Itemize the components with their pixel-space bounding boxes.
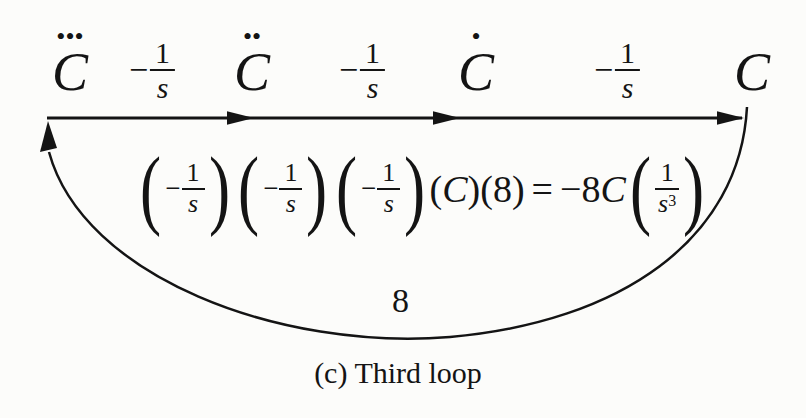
open-paren: (: [480, 170, 493, 208]
arrowhead-into-cdot-icon: [433, 111, 460, 125]
equation-factor-2: ( − 1 s ): [234, 152, 332, 226]
equation-factor-1: ( − 1 s ): [136, 152, 234, 226]
arrowhead-into-c-icon: [717, 111, 744, 125]
fraction-denominator: s: [154, 71, 172, 104]
feedback-arrowhead-icon: [40, 121, 57, 152]
feedback-loop-gain-label: 8: [392, 284, 409, 318]
fraction-numerator: 1: [360, 36, 385, 69]
close-paren: ): [404, 152, 425, 226]
denominator-base: s: [658, 189, 668, 218]
minus-sign: −: [263, 175, 279, 202]
node-label: C: [734, 48, 770, 98]
rhs-coefficient: −8: [560, 170, 600, 208]
rhs-fraction-group: ( 1 s3 ): [626, 152, 709, 226]
arrowhead-into-cddot-icon: [227, 111, 254, 125]
fraction-denominator: s3: [655, 190, 679, 219]
node-c-doubledot: •• C: [234, 30, 270, 98]
fraction: 1 s: [377, 159, 400, 219]
signal-flow-diagram: ••• C •• C • C C − 1 s − 1 s − 1 s: [0, 0, 806, 418]
fraction-numerator: 1: [150, 36, 175, 69]
fraction-denominator: s: [185, 190, 201, 219]
minus-sign: −: [129, 53, 150, 87]
loop-gain-equation: ( − 1 s ) ( − 1 s ) ( − 1 s: [136, 152, 709, 226]
close-paren: ): [307, 152, 328, 226]
branch-gain-1: − 1 s: [129, 36, 175, 104]
fraction-denominator: s: [364, 71, 382, 104]
close-paren: ): [683, 152, 704, 226]
open-paren: (: [630, 152, 651, 226]
minus-sign: −: [165, 175, 181, 202]
close-paren: ): [468, 170, 481, 208]
node-c: C: [734, 30, 770, 98]
open-paren: (: [238, 152, 259, 226]
fraction-denominator: s: [381, 190, 397, 219]
fraction-numerator: 1: [656, 159, 679, 188]
open-paren: (: [336, 152, 357, 226]
minus-sign: −: [339, 53, 360, 87]
branch-gain-2: − 1 s: [339, 36, 385, 104]
denominator-exponent: 3: [668, 192, 676, 209]
fraction: 1 s3: [655, 159, 679, 219]
open-paren: (: [430, 170, 443, 208]
node-label: C: [234, 48, 270, 98]
variable-c: C: [600, 170, 625, 208]
node-label: C: [52, 48, 88, 98]
open-paren: (: [140, 152, 161, 226]
fraction-numerator: 1: [182, 159, 205, 188]
fraction: 1 s: [615, 36, 640, 104]
gain-value: 8: [493, 170, 512, 208]
figure-caption: (c) Third loop: [0, 356, 796, 389]
node-label: C: [458, 48, 494, 98]
minus-sign: −: [361, 175, 377, 202]
fraction-denominator: s: [283, 190, 299, 219]
equation-factor-3: ( − 1 s ): [332, 152, 430, 226]
fraction-numerator: 1: [615, 36, 640, 69]
fraction: 1 s: [279, 159, 302, 219]
fraction: 1 s: [182, 159, 205, 219]
fraction-denominator: s: [619, 71, 637, 104]
minus-sign: −: [594, 53, 615, 87]
fraction-numerator: 1: [377, 159, 400, 188]
fraction: 1 s: [360, 36, 385, 104]
fraction-numerator: 1: [279, 159, 302, 188]
node-c-tripledot: ••• C: [52, 30, 88, 98]
equals-sign: =: [532, 170, 553, 208]
branch-gain-3: − 1 s: [594, 36, 640, 104]
fraction: 1 s: [150, 36, 175, 104]
variable-c: C: [442, 170, 467, 208]
close-paren: ): [209, 152, 230, 226]
node-c-dot: • C: [458, 30, 494, 98]
close-paren: ): [512, 170, 525, 208]
